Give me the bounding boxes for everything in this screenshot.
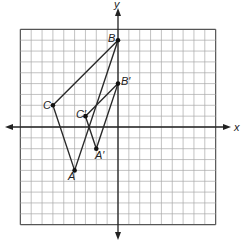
point-c bbox=[51, 103, 56, 108]
coordinate-plane: x y A B C A′ B′ C′ bbox=[0, 0, 243, 242]
label-c: C bbox=[43, 99, 51, 111]
x-axis-right-arrow-icon bbox=[223, 124, 231, 130]
label-a: A bbox=[67, 170, 75, 182]
y-axis-down-arrow-icon bbox=[115, 232, 121, 240]
label-a-prime: A′ bbox=[94, 149, 105, 161]
y-axis-label: y bbox=[113, 0, 121, 10]
point-b-prime bbox=[116, 81, 121, 86]
label-c-prime: C′ bbox=[76, 108, 87, 120]
label-b: B bbox=[108, 32, 115, 44]
point-b bbox=[116, 38, 121, 43]
label-b-prime: B′ bbox=[121, 75, 131, 87]
x-axis-label: x bbox=[233, 121, 240, 133]
x-axis-left-arrow-icon bbox=[5, 124, 13, 130]
